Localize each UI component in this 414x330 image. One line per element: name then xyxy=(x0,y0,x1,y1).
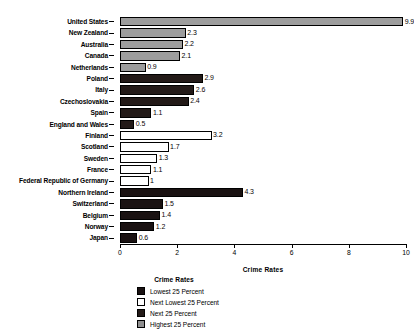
y-axis-tick-row: Canada xyxy=(0,50,114,61)
bar-value-label: 1.2 xyxy=(156,221,165,232)
y-axis-tick-mark xyxy=(109,158,114,159)
bar-value-label: 2.6 xyxy=(196,84,205,95)
y-axis-tick-row: Scotland xyxy=(0,141,114,152)
bar xyxy=(120,222,154,231)
bar-row: 0.6 xyxy=(120,232,406,243)
bar-value-label: 0.9 xyxy=(147,61,156,72)
y-axis-label-italy: Italy xyxy=(95,84,108,95)
x-axis-tick-label: 0 xyxy=(118,249,122,256)
y-axis-tick-row: Netherlands xyxy=(0,62,114,73)
x-axis-tick-mark xyxy=(349,244,350,248)
y-axis-tick-mark xyxy=(109,90,114,91)
y-axis-tick-row: France xyxy=(0,164,114,175)
x-axis-tick-label: 6 xyxy=(290,249,294,256)
bar xyxy=(120,40,183,49)
y-axis-tick-mark xyxy=(109,101,114,102)
x-axis-tick-label: 4 xyxy=(233,249,237,256)
bar-row: 1.1 xyxy=(120,164,406,175)
bar-value-label: 2.9 xyxy=(204,72,213,83)
x-axis-tick-mark xyxy=(406,244,407,248)
y-axis-label-spain: Spain xyxy=(91,107,108,118)
bar xyxy=(120,199,163,208)
bar xyxy=(120,120,134,129)
bar xyxy=(120,74,203,83)
bar-value-label: 0.6 xyxy=(139,232,148,243)
bar-value-label: 4.3 xyxy=(244,186,253,197)
y-axis-tick-row: England and Wales xyxy=(0,119,114,130)
bar-row: 2.1 xyxy=(120,50,406,61)
legend-item-label: Next Lowest 25 Percent xyxy=(150,299,219,306)
y-axis-label-scotland: Scotland xyxy=(81,141,108,152)
y-axis-label-federal-republic-of-germany: Federal Republic of Germany xyxy=(19,175,108,186)
bar-value-label: 2.2 xyxy=(184,38,193,49)
bar-value-label: 0.5 xyxy=(136,118,145,129)
bar-row: 4.3 xyxy=(120,187,406,198)
y-axis-tick-row: Japan xyxy=(0,232,114,243)
legend-item: Next 25 Percent xyxy=(137,308,219,318)
y-axis-label-japan: Japan xyxy=(89,232,108,243)
y-axis-label-australia: Australia xyxy=(81,39,108,50)
bar xyxy=(120,85,194,94)
y-axis-tick-mark xyxy=(109,124,114,125)
legend-item: Lowest 25 Percent xyxy=(137,286,219,296)
bar-row: 3.2 xyxy=(120,130,406,141)
y-axis-label-czechoslovakia: Czechoslovakia xyxy=(60,96,108,107)
y-axis-label-finland: Finland xyxy=(85,130,108,141)
legend-title: Crime Rates xyxy=(129,276,219,283)
x-axis-tick-label: 8 xyxy=(347,249,351,256)
y-axis-tick-row: Northern Ireland xyxy=(0,187,114,198)
bar xyxy=(120,97,189,106)
bar xyxy=(120,211,160,220)
bar-value-label: 1.5 xyxy=(164,198,173,209)
y-axis-label-canada: Canada xyxy=(85,50,108,61)
y-axis-tick-mark xyxy=(109,44,114,45)
legend-item-label: Highest 25 Percent xyxy=(150,321,205,328)
chart-legend: Crime Rates Lowest 25 PercentNext Lowest… xyxy=(137,276,219,330)
y-axis-tick-mark xyxy=(109,135,114,136)
bar-row: 2.6 xyxy=(120,84,406,95)
x-axis-tick-label: 2 xyxy=(175,249,179,256)
bar xyxy=(120,108,151,117)
bar xyxy=(120,165,151,174)
bar-row: 2.4 xyxy=(120,96,406,107)
bar-value-label: 1.1 xyxy=(153,164,162,175)
bar-row: 0.9 xyxy=(120,62,406,73)
y-axis-tick-row: Sweden xyxy=(0,153,114,164)
bar-row: 1.1 xyxy=(120,107,406,118)
legend-color-swatch xyxy=(137,298,145,306)
y-axis-label-new-zealand: New Zealand xyxy=(69,27,108,38)
y-axis-tick-mark xyxy=(109,78,114,79)
y-axis-tick-row: United States xyxy=(0,16,114,27)
bar xyxy=(120,154,157,163)
bar-value-label: 1.7 xyxy=(170,141,179,152)
legend-color-swatch xyxy=(137,320,145,328)
y-axis-tick-row: Belgium xyxy=(0,210,114,221)
x-axis-tick-mark xyxy=(120,244,121,248)
bar xyxy=(120,176,149,185)
y-axis-category-labels: United StatesNew ZealandAustraliaCanadaN… xyxy=(0,16,114,244)
x-axis-title: Crime Rates xyxy=(120,266,406,273)
y-axis-tick-mark xyxy=(109,33,114,34)
y-axis-tick-row: Italy xyxy=(0,84,114,95)
y-axis-tick-mark xyxy=(109,215,114,216)
bar-value-label: 1.1 xyxy=(153,107,162,118)
y-axis-label-united-states: United States xyxy=(67,16,108,27)
bar-value-label: 2.3 xyxy=(187,27,196,38)
y-axis-label-england-and-wales: England and Wales xyxy=(49,119,108,130)
y-axis-tick-mark xyxy=(109,238,114,239)
y-axis-label-norway: Norway xyxy=(85,221,108,232)
y-axis-label-switzerland: Switzerland xyxy=(72,198,108,209)
x-axis-tick-mark xyxy=(234,244,235,248)
y-axis-tick-row: Czechoslovakia xyxy=(0,96,114,107)
bar xyxy=(120,63,146,72)
y-axis-tick-mark xyxy=(109,192,114,193)
bar xyxy=(120,51,180,60)
y-axis-tick-mark xyxy=(109,181,114,182)
y-axis-label-sweden: Sweden xyxy=(84,153,108,164)
bar-value-label: 2.4 xyxy=(190,95,199,106)
x-axis-tick-label: 10 xyxy=(402,249,410,256)
y-axis-tick-row: Switzerland xyxy=(0,198,114,209)
x-axis-tick-mark xyxy=(292,244,293,248)
bar-row: 1.7 xyxy=(120,141,406,152)
